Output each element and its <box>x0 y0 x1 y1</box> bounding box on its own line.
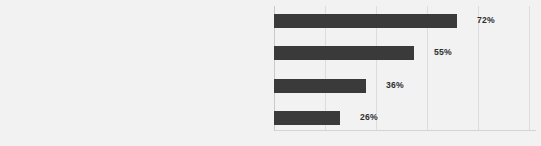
bar-series-1 <box>274 46 414 60</box>
value-label: 26% <box>360 112 378 122</box>
value-label: 55% <box>434 47 452 57</box>
bar-series-3 <box>274 111 340 125</box>
bar-series-0 <box>274 14 457 28</box>
table-row: I sometimes wish I had a calling other t… <box>0 72 541 104</box>
bar-series-2 <box>274 79 366 93</box>
table-row: I definitely feel content in my role as … <box>0 7 541 39</box>
value-label: 36% <box>386 80 404 90</box>
table-row: I currently have another job outside my … <box>0 104 541 136</box>
horizontal-bar-chart: I definitely feel content in my role as … <box>0 0 541 146</box>
value-label: 72% <box>477 15 495 25</box>
table-row: I had a different career before becoming… <box>0 39 541 71</box>
